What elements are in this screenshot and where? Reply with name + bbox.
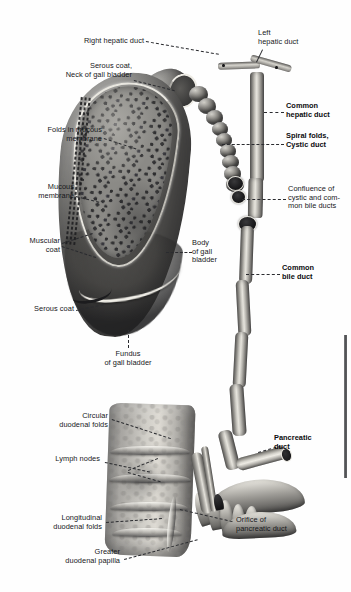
label-left-hepatic-duct: Left hepatic duct	[258, 29, 338, 46]
scan-edge-artifact	[344, 335, 347, 478]
right-hepatic-duct-lumen	[222, 64, 225, 67]
leader-confluence	[242, 199, 286, 200]
common-hepatic-duct-lower	[248, 178, 264, 218]
anatomical-plate: Right hepatic duct Left hepatic duct Ser…	[0, 0, 351, 592]
leader-fundus-of-gall-bladder	[128, 330, 129, 348]
common-bile-duct-structure	[236, 280, 252, 337]
label-pancreatic-duct: Pancreatic duct	[274, 434, 336, 451]
label-longitudinal-duodenal-folds: Longitudinal duodenal folds	[16, 514, 102, 531]
label-spiral-folds-cystic-duct: Spiral folds, Cystic duct	[286, 132, 348, 149]
label-fundus-of-gall-bladder: Fundus of gall bladder	[72, 350, 184, 367]
illustration-artwork	[0, 0, 351, 592]
leader-common-bile-duct	[246, 274, 280, 275]
label-muscular-coat: Muscular coat	[8, 237, 60, 254]
leader-spiral-folds-cystic-duct	[222, 144, 284, 145]
circular-duodenal-fold	[110, 446, 190, 455]
label-orifice-of-pancreatic-duct: Orifice of pancreatic duct	[236, 516, 330, 533]
label-confluence: Confluence of cystic and com- mon bile d…	[288, 185, 350, 211]
label-folds-in-mucous-membrane: Folds in mucous membrane	[14, 126, 102, 143]
circular-duodenal-fold	[110, 502, 188, 511]
label-common-hepatic-duct: Common hepatic duct	[286, 102, 348, 119]
label-common-bile-duct: Common bile duct	[282, 264, 344, 281]
label-right-hepatic-duct: Right hepatic duct	[38, 37, 144, 46]
label-lymph-nodes: Lymph nodes	[22, 455, 100, 464]
label-greater-duodenal-papilla: Greater duodenal papilla	[20, 548, 120, 565]
label-body-of-gall-bladder: Body of gall bladder	[192, 239, 242, 265]
leader-common-hepatic-duct	[264, 112, 284, 113]
common-bile-duct-structure	[229, 384, 247, 437]
label-serous-coat-neck: Serous coat, Neck of gall bladder	[24, 62, 132, 79]
leader-body-of-gall-bladder	[166, 252, 192, 253]
confluence-lumen-lower	[231, 190, 246, 204]
label-serous-coat: Serous coat	[12, 305, 74, 314]
label-mucous-membrane: Mucous membrane	[16, 183, 74, 200]
confluence-lumen-upper	[227, 176, 244, 191]
common-hepatic-duct-structure	[250, 72, 264, 182]
label-circular-duodenal-folds: Circular duodenal folds	[22, 412, 108, 429]
common-bile-duct-structure	[233, 332, 249, 389]
left-hepatic-duct-lumen	[275, 66, 278, 69]
